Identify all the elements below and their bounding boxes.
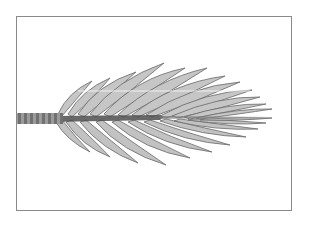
leaflets-lower: [56, 118, 272, 165]
petiole: [17, 113, 63, 124]
palm-frond-illustration: [0, 0, 309, 228]
